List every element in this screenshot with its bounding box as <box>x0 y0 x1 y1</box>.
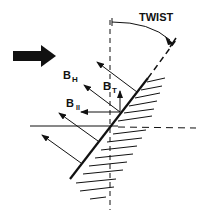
svg-text:B: B <box>63 69 71 81</box>
tilted-surface <box>70 40 176 179</box>
twist-label: TWIST <box>139 11 173 23</box>
incident-direction-arrow <box>13 45 56 67</box>
mid-normal-arrow <box>59 113 98 141</box>
twist-diagram: TWIST B H B T B II <box>0 0 204 215</box>
horizontal-reference-axis <box>30 126 196 128</box>
lower-normal-arrow <box>42 135 81 163</box>
svg-text:H: H <box>72 75 78 84</box>
svg-text:B: B <box>103 80 111 92</box>
svg-text:B: B <box>66 97 74 109</box>
svg-text:T: T <box>112 86 117 95</box>
b-parallel-label: B II <box>66 97 80 111</box>
b-h-label: B H <box>63 69 78 84</box>
svg-text:II: II <box>76 104 80 111</box>
